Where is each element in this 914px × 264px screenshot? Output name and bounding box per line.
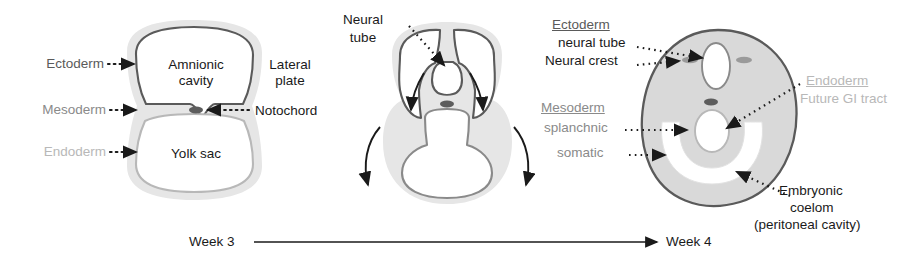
label-lateral-plate-line1: Lateral (255, 57, 325, 73)
label-endoderm-right-header: Endoderm (806, 73, 868, 89)
label-neural-tube-line2: tube (324, 30, 402, 46)
timeline-end-label: Week 4 (666, 234, 712, 250)
label-ectoderm-left: Ectoderm (8, 56, 104, 72)
label-mesoderm-left: Mesoderm (8, 102, 106, 118)
label-ectoderm-item-neural-crest: Neural crest (545, 53, 618, 69)
label-endoderm-item-gi-tract: Future GI tract (800, 91, 887, 107)
label-neural-tube-line1: Neural (324, 12, 402, 28)
label-coelom-line1: Embryonic (779, 183, 843, 199)
label-ectoderm-item-neural-tube: neural tube (558, 35, 626, 51)
neural-groove (432, 62, 462, 95)
label-mesoderm-item-somatic: somatic (557, 145, 604, 161)
notochord-dot-middle (440, 101, 454, 108)
notochord-dot (189, 107, 203, 114)
label-coelom-line3: (peritoneal cavity) (754, 217, 861, 233)
neural-crest-right (736, 57, 752, 63)
figure-canvas: Ectoderm Mesoderm Endoderm Amnionic cavi… (0, 0, 914, 264)
label-yolk-sac: Yolk sac (148, 146, 244, 162)
fold-arrow-outer-left (366, 127, 380, 185)
label-mesoderm-right-header: Mesoderm (541, 100, 605, 116)
label-amnionic-cavity-line1: Amnionic (146, 57, 246, 73)
panel-right-embryo (642, 30, 797, 206)
label-ectoderm-right-header: Ectoderm (552, 17, 610, 33)
neural-tube-right (702, 43, 730, 89)
label-notochord: Notochord (255, 103, 317, 119)
label-endoderm-left: Endoderm (8, 144, 106, 160)
label-lateral-plate-line2: plate (255, 73, 325, 89)
panel-middle-embryo (366, 22, 529, 204)
timeline-start-label: Week 3 (189, 234, 235, 250)
label-coelom-line2: coelom (790, 200, 834, 216)
label-amnionic-cavity-line2: cavity (146, 73, 246, 89)
fold-arrow-outer-right (514, 127, 528, 185)
notochord-dot-right (704, 99, 718, 106)
label-mesoderm-item-splanchnic: splanchnic (544, 120, 608, 136)
gut-tube-right (695, 110, 729, 152)
